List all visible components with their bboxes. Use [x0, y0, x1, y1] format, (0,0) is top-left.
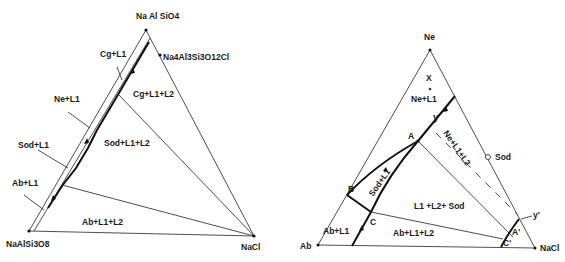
field-label: Ne+L1 — [411, 94, 437, 104]
point-label-x: X — [426, 73, 432, 83]
leader-sod-l1 — [38, 150, 68, 168]
sod-point-label: Sod — [495, 152, 511, 162]
left-edge — [29, 30, 146, 231]
leader-ab-l1 — [24, 195, 44, 210]
field-label: Ab+L1 — [12, 178, 38, 188]
vertex-dot — [429, 49, 432, 52]
leader-yprime — [521, 216, 532, 219]
vertex-label-side: Na4Al3Si3O12Cl — [163, 52, 229, 62]
vertex-label-bottom-right: NaCl — [540, 243, 559, 253]
field-label: Ab+L1 — [323, 226, 349, 236]
base-edge — [29, 231, 254, 236]
sod-point-circle — [486, 155, 491, 160]
vertex-dot — [534, 247, 537, 250]
point-label-c-prime: C' — [503, 238, 511, 248]
liquidus-curve — [48, 42, 149, 208]
field-label: Ab+L1+L2 — [82, 217, 123, 227]
field-label: Ne+L1 — [54, 94, 80, 104]
field-label: Sod+L1 — [18, 140, 49, 150]
vertex-dot — [317, 244, 320, 247]
vertex-dot — [158, 53, 161, 56]
point-label-b: B — [348, 184, 354, 194]
field-label: Ne+L1+L2 — [441, 128, 473, 167]
point-label-c: C — [370, 217, 376, 227]
point-a-dot — [416, 139, 419, 142]
vertex-dot — [252, 234, 255, 237]
phase-diagrams: Na Al SiO4 Na4Al3Si3O12Cl NaAlSi3O8 NaCl… — [0, 0, 565, 262]
vertex-label-top: Na Al SiO4 — [136, 11, 179, 21]
curve-b-c — [347, 195, 371, 212]
field-label: Cg+L1+L2 — [133, 89, 174, 99]
vertex-dot — [144, 28, 147, 31]
vertex-label-bottom-left: Ab — [300, 241, 311, 251]
vertex-label-top: Ne — [424, 32, 435, 42]
point-label-a-prime: A' — [512, 227, 520, 237]
leader-ne-l1 — [68, 112, 90, 128]
vertex-dot — [27, 229, 30, 232]
right-edge — [430, 50, 535, 248]
point-label-y: y — [433, 112, 439, 123]
point-x-dot — [429, 88, 432, 91]
vertex-label-bottom-left: NaAlSi3O8 — [6, 239, 50, 249]
field-label: Cg+L1 — [100, 49, 126, 59]
field-label: Ab+L1+L2 — [393, 228, 434, 238]
vertex-label-bottom-right: NaCl — [241, 242, 260, 252]
point-label-a: A — [408, 131, 414, 141]
field-label: L1 +L2+ Sod — [414, 201, 465, 211]
field-label: Sod+L1+L2 — [104, 138, 150, 148]
right-ternary-diagram: Ne Ab NaCl Sod X y A B C A' C' y' Ne+L1 … — [300, 32, 559, 253]
tie-line-cg-sod — [118, 94, 254, 236]
point-label-y-prime: y' — [533, 210, 540, 220]
tie-line-sod-ab — [62, 185, 254, 236]
left-ternary-diagram: Na Al SiO4 Na4Al3Si3O12Cl NaAlSi3O8 NaCl… — [6, 11, 260, 252]
tie-line-c-cprime — [371, 212, 503, 239]
